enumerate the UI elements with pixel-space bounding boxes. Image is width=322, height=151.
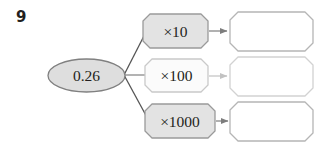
answer-box-1[interactable] [230,12,313,51]
start-node-value: 0.26 [73,67,100,84]
answer-box-2[interactable] [230,57,313,96]
operation-label-3: ×1000 [160,113,200,130]
branch-row-1: ×10 [143,12,313,51]
worksheet-question-panel: 9 0.26 ×10 [0,0,322,151]
function-machine-diagram: 0.26 ×10 ×100 ×1000 [0,0,322,151]
answer-box-3[interactable] [230,102,313,141]
branch-row-2: ×100 [145,57,313,96]
operation-label-1: ×10 [163,23,187,40]
start-node: 0.26 [48,59,125,92]
operation-label-2: ×100 [161,67,193,84]
branch-row-3: ×1000 [145,102,313,141]
